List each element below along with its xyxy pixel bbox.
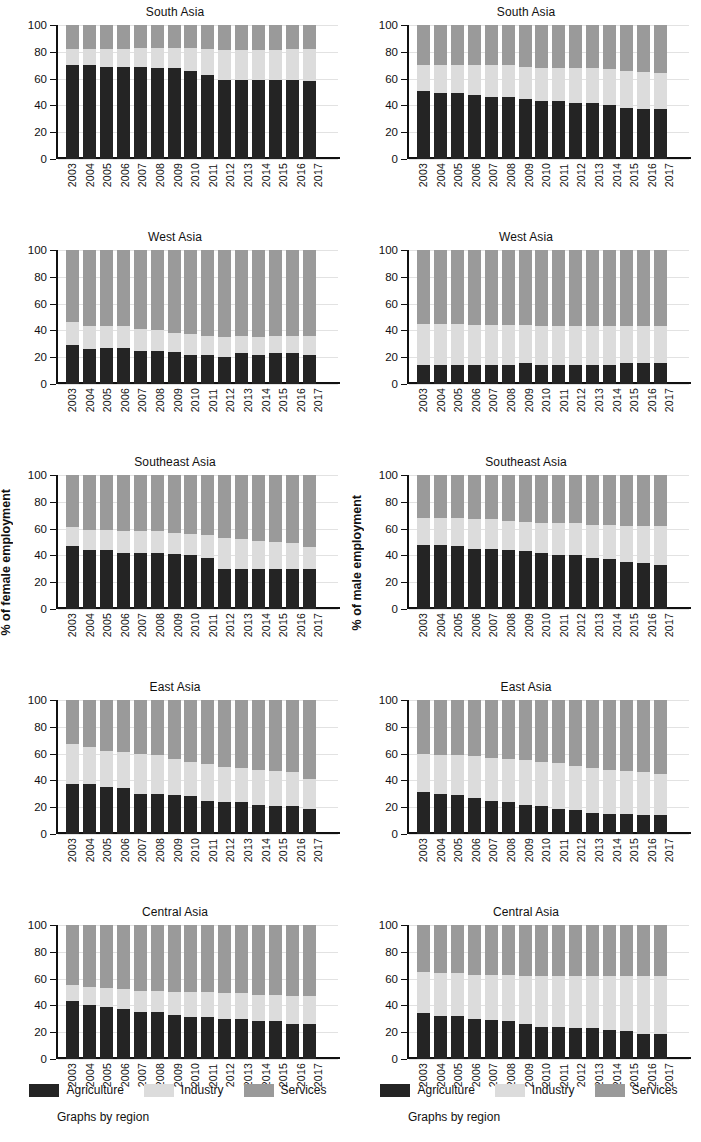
bar-segment-services <box>417 925 430 972</box>
bar-segment-services <box>83 250 96 326</box>
x-tick-label: 2011 <box>207 163 221 187</box>
x-tick-label: 2006 <box>119 613 133 637</box>
x-tick-label: 2015 <box>628 388 642 412</box>
stacked-bar <box>451 925 464 1059</box>
legend-swatch-agriculture <box>29 1084 59 1097</box>
legend-label: Agriculture <box>417 1083 474 1097</box>
x-tick-label: 2005 <box>101 388 115 412</box>
y-tick <box>401 780 407 781</box>
y-tick-label: 40 <box>19 999 47 1011</box>
x-tick-label: 2003 <box>417 163 431 187</box>
x-tick-label: 2004 <box>435 613 449 637</box>
x-tick-label: 2010 <box>189 163 203 187</box>
bar-segment-industry <box>269 542 282 569</box>
bar-segment-services <box>451 925 464 973</box>
bar-segment-agriculture <box>269 1021 282 1059</box>
bar-group <box>66 475 316 609</box>
y-tick-label: 20 <box>19 576 47 588</box>
bar-segment-agriculture <box>134 1012 147 1059</box>
bar-segment-services <box>417 475 430 518</box>
bar-segment-industry <box>552 523 565 555</box>
stacked-bar <box>218 250 231 384</box>
bar-segment-agriculture <box>603 1030 616 1059</box>
chart-title: Southeast Asia <box>351 455 701 469</box>
x-tick-label: 2006 <box>470 838 484 862</box>
x-tick-label: 2011 <box>558 388 572 412</box>
x-tick-label: 2009 <box>172 388 186 412</box>
stacked-bar <box>184 700 197 834</box>
y-tick-label: 80 <box>370 946 398 958</box>
bar-segment-industry <box>117 531 130 552</box>
bar-segment-services <box>184 700 197 762</box>
bar-segment-services <box>586 700 599 768</box>
bar-segment-agriculture <box>66 65 79 159</box>
x-tick-label: 2011 <box>558 163 572 187</box>
bar-segment-agriculture <box>417 1013 430 1059</box>
y-tick <box>401 159 407 160</box>
bar-segment-agriculture <box>502 365 515 384</box>
y-tick-label: 60 <box>370 973 398 985</box>
bar-segment-services <box>201 700 214 764</box>
bar-segment-industry <box>603 976 616 1030</box>
bar-segment-industry <box>151 531 164 552</box>
bar-segment-agriculture <box>184 1017 197 1059</box>
stacked-bar <box>269 925 282 1059</box>
legend-item-services: Services <box>595 1083 678 1097</box>
bar-segment-agriculture <box>83 349 96 384</box>
bar-segment-services <box>654 925 667 976</box>
bar-segment-agriculture <box>654 363 667 384</box>
bar-segment-agriculture <box>417 91 430 159</box>
bar-segment-services <box>637 700 650 772</box>
bar-segment-agriculture <box>468 1019 481 1059</box>
bar-segment-agriculture <box>151 553 164 609</box>
bar-segment-industry <box>117 752 130 788</box>
stacked-bar <box>218 475 231 609</box>
y-tick-label: 40 <box>19 99 47 111</box>
y-tick <box>50 250 56 251</box>
x-tick-label: 2009 <box>172 163 186 187</box>
bar-segment-services <box>535 250 548 326</box>
stacked-bar <box>201 250 214 384</box>
y-tick-label: 100 <box>19 694 47 706</box>
bar-segment-industry <box>83 747 96 785</box>
gridline <box>409 834 689 835</box>
x-tick-label: 2012 <box>224 838 238 862</box>
bar-segment-industry <box>535 68 548 102</box>
bar-segment-industry <box>603 525 616 560</box>
bar-segment-agriculture <box>134 553 147 609</box>
stacked-bar <box>535 700 548 834</box>
x-tick-label: 2016 <box>295 163 309 187</box>
bar-segment-agriculture <box>66 546 79 609</box>
bar-group <box>66 700 316 834</box>
bar-segment-industry <box>654 774 667 816</box>
stacked-bar <box>519 475 532 609</box>
bar-segment-industry <box>417 324 430 366</box>
bar-segment-industry <box>168 533 181 554</box>
stacked-bar <box>134 475 147 609</box>
bar-segment-industry <box>519 760 532 804</box>
y-tick-label: 20 <box>370 801 398 813</box>
bar-segment-agriculture <box>252 569 265 609</box>
bar-segment-services <box>218 925 231 993</box>
stacked-bar <box>218 925 231 1059</box>
y-tick <box>50 754 56 755</box>
bar-segment-industry <box>620 526 633 562</box>
stacked-bar <box>286 475 299 609</box>
bar-segment-industry <box>451 755 464 795</box>
bar-segment-agriculture <box>502 97 515 159</box>
bar-segment-industry <box>252 541 265 569</box>
stacked-bar <box>184 925 197 1059</box>
stacked-bar <box>100 925 113 1059</box>
bar-segment-industry <box>252 995 265 1022</box>
stacked-bar <box>303 25 316 159</box>
y-tick <box>401 1059 407 1060</box>
bar-segment-services <box>168 925 181 992</box>
bar-segment-services <box>519 250 532 325</box>
bar-segment-agriculture <box>218 569 231 609</box>
bar-segment-industry <box>286 49 299 80</box>
bar-segment-industry <box>603 770 616 814</box>
bar-segment-agriculture <box>303 569 316 609</box>
stacked-bar <box>117 700 130 834</box>
x-tick-label: 2008 <box>505 163 519 187</box>
bar-group <box>417 475 667 609</box>
